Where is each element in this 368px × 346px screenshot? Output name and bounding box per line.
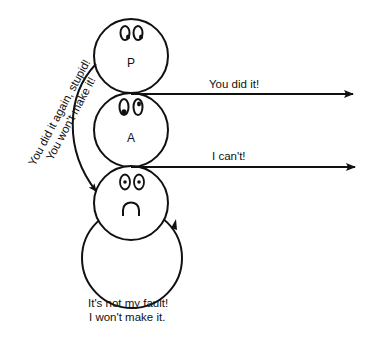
adult-letter: A — [127, 131, 135, 145]
label-you-did-it: You did it! — [209, 78, 259, 91]
adult-node — [94, 93, 168, 167]
loop-caption-line-2: I won't make it. — [89, 311, 165, 324]
parent-letter: P — [127, 56, 135, 70]
loop-caption-line-1: It's not my fault! — [88, 297, 168, 310]
diagram-canvas — [0, 0, 368, 346]
label-i-cant: I can't! — [212, 150, 246, 163]
child-node — [94, 166, 168, 240]
